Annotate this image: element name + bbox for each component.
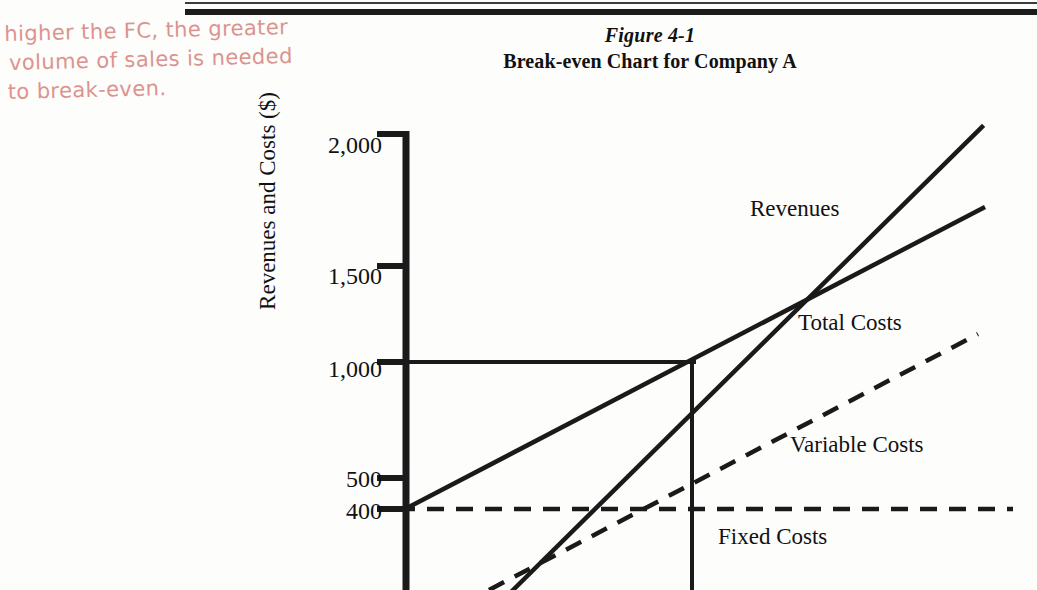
series-line-revenues <box>513 127 982 590</box>
y-tick-label-1000: 1,000 <box>272 357 382 381</box>
series-label-revenues: Revenues <box>750 196 839 222</box>
y-axis-title: Revenues and Costs ($) <box>255 71 281 331</box>
series-label-total-costs: Total Costs <box>798 310 902 336</box>
break-even-chart <box>0 0 1037 590</box>
series-label-variable-costs: Variable Costs <box>790 432 924 458</box>
figure-page: higher the FC, the greater volume of sal… <box>0 0 1037 590</box>
y-tick-label-500: 500 <box>272 467 382 491</box>
y-tick-label-400: 400 <box>272 499 382 523</box>
y-tick-label-1500: 1,500 <box>272 264 382 288</box>
series-line-total-costs <box>407 208 983 508</box>
series-label-fixed-costs: Fixed Costs <box>718 524 827 550</box>
y-tick-label-2000: 2,000 <box>272 133 382 157</box>
